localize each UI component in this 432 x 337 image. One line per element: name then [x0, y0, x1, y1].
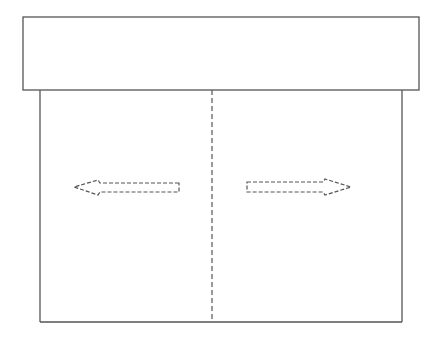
door-frame: [40, 90, 402, 322]
left-arrow-icon: [74, 180, 179, 195]
header-box: [23, 17, 419, 90]
right-arrow-icon: [247, 179, 351, 195]
sliding-door-diagram: [0, 0, 432, 337]
